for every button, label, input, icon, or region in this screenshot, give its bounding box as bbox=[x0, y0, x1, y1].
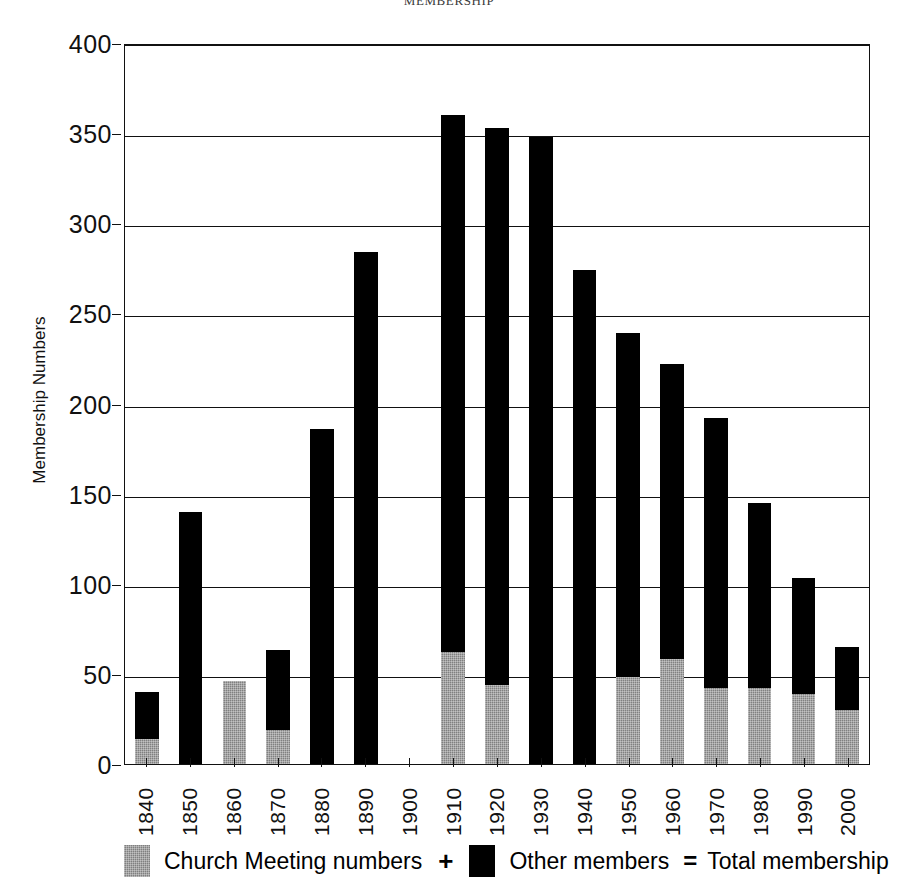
bar-slot bbox=[213, 46, 257, 764]
bar-segment-other-members[interactable] bbox=[266, 650, 290, 729]
x-axis-tick-mark bbox=[541, 758, 542, 767]
x-axis-tick-slot: 1920 bbox=[475, 767, 519, 839]
bar-segment-other-members[interactable] bbox=[616, 333, 640, 677]
y-axis-tick-label: 150 bbox=[2, 480, 112, 509]
bar-segment-other-members[interactable] bbox=[354, 252, 378, 764]
bar-slot bbox=[738, 46, 782, 764]
x-axis-tick-slot: 1980 bbox=[738, 767, 782, 839]
x-axis-tick-label: 1960 bbox=[662, 767, 683, 839]
x-axis-tick-slot: 1970 bbox=[694, 767, 738, 839]
bar-segment-church-meeting[interactable] bbox=[792, 694, 816, 764]
bar-slot bbox=[475, 46, 519, 764]
x-axis-tick-mark bbox=[848, 758, 849, 767]
y-axis-tick-label: 100 bbox=[2, 570, 112, 599]
bar-segment-church-meeting[interactable] bbox=[223, 681, 247, 764]
x-axis-tick-slot: 1990 bbox=[782, 767, 826, 839]
bar-segment-other-members[interactable] bbox=[310, 429, 334, 764]
bar-segment-other-members[interactable] bbox=[485, 128, 509, 685]
x-axis-tick-labels: 1840185018601870188018901900191019201930… bbox=[124, 767, 870, 839]
bar-segment-other-members[interactable] bbox=[704, 418, 728, 688]
x-axis-tick-mark bbox=[716, 758, 717, 767]
y-axis-tick-mark bbox=[112, 405, 121, 406]
bar-segment-church-meeting[interactable] bbox=[485, 685, 509, 764]
stacked-bar[interactable] bbox=[616, 333, 640, 764]
bar-slot bbox=[300, 46, 344, 764]
y-axis-tick-mark bbox=[112, 44, 121, 45]
bar-slot bbox=[256, 46, 300, 764]
y-axis-tick-label: 200 bbox=[2, 390, 112, 419]
x-axis-tick-label: 1850 bbox=[179, 767, 200, 839]
y-axis-tick-mark bbox=[112, 224, 121, 225]
x-axis-tick-label: 1970 bbox=[706, 767, 727, 839]
stacked-bar[interactable] bbox=[354, 252, 378, 764]
bar-slot bbox=[519, 46, 563, 764]
x-axis-tick-mark bbox=[409, 758, 410, 767]
x-axis-tick-label: 1840 bbox=[135, 767, 156, 839]
bar-slot bbox=[388, 46, 432, 764]
x-axis-tick-mark bbox=[760, 758, 761, 767]
y-axis-tick-label: 350 bbox=[2, 120, 112, 149]
y-axis-tick-mark bbox=[112, 134, 121, 135]
x-axis-tick-mark bbox=[629, 758, 630, 767]
legend-swatch-other-icon bbox=[469, 845, 495, 877]
chart-legend: Church Meeting numbers + Other members =… bbox=[124, 841, 884, 881]
stacked-bar[interactable] bbox=[748, 503, 772, 764]
stacked-bar[interactable] bbox=[485, 128, 509, 764]
y-axis-tick-mark bbox=[112, 314, 121, 315]
stacked-bar[interactable] bbox=[223, 681, 247, 764]
x-axis-tick-slot: 1940 bbox=[563, 767, 607, 839]
y-axis-tick-mark bbox=[112, 495, 121, 496]
x-axis-tick-label: 1950 bbox=[618, 767, 639, 839]
bar-slot bbox=[650, 46, 694, 764]
stacked-bar[interactable] bbox=[310, 429, 334, 764]
x-axis-tick-label: 1930 bbox=[530, 767, 551, 839]
bar-segment-church-meeting[interactable] bbox=[748, 688, 772, 764]
stacked-bar[interactable] bbox=[266, 650, 290, 764]
bar-segment-church-meeting[interactable] bbox=[441, 652, 465, 764]
bar-segment-other-members[interactable] bbox=[835, 647, 859, 710]
legend-swatch-church-icon bbox=[124, 845, 150, 877]
stacked-bar[interactable] bbox=[660, 364, 684, 764]
stacked-bar[interactable] bbox=[792, 578, 816, 764]
x-axis-tick-label: 1990 bbox=[794, 767, 815, 839]
legend-label-total: Total membership bbox=[707, 848, 889, 875]
x-axis-tick-mark bbox=[365, 758, 366, 767]
x-axis-tick-slot: 1960 bbox=[651, 767, 695, 839]
y-axis-tick-mark bbox=[112, 675, 121, 676]
bar-segment-other-members[interactable] bbox=[660, 364, 684, 660]
x-axis-tick-mark bbox=[804, 758, 805, 767]
bar-segment-church-meeting[interactable] bbox=[660, 659, 684, 764]
x-axis-tick-slot: 1930 bbox=[519, 767, 563, 839]
x-axis-tick-label: 1940 bbox=[574, 767, 595, 839]
chart-title: MEMBERSHIP bbox=[0, 0, 898, 9]
bar-segment-other-members[interactable] bbox=[441, 115, 465, 652]
x-axis-tick-slot: 1910 bbox=[431, 767, 475, 839]
bar-segment-other-members[interactable] bbox=[179, 512, 203, 764]
stacked-bar[interactable] bbox=[179, 512, 203, 764]
stacked-bar[interactable] bbox=[835, 647, 859, 764]
x-axis-tick-slot: 1950 bbox=[607, 767, 651, 839]
bar-segment-other-members[interactable] bbox=[792, 578, 816, 693]
x-axis-tick-mark bbox=[278, 758, 279, 767]
bar-segment-other-members[interactable] bbox=[748, 503, 772, 689]
bar-segment-other-members[interactable] bbox=[135, 692, 159, 739]
bar-segment-other-members[interactable] bbox=[573, 270, 597, 764]
bar-slot bbox=[431, 46, 475, 764]
stacked-bar[interactable] bbox=[573, 270, 597, 764]
bar-segment-church-meeting[interactable] bbox=[835, 710, 859, 764]
bar-slot bbox=[125, 46, 169, 764]
bar-segment-church-meeting[interactable] bbox=[704, 688, 728, 764]
x-axis-tick-label: 1860 bbox=[223, 767, 244, 839]
x-axis-tick-mark bbox=[321, 758, 322, 767]
bar-segment-church-meeting[interactable] bbox=[616, 677, 640, 764]
stacked-bar[interactable] bbox=[704, 418, 728, 764]
bar-slot bbox=[694, 46, 738, 764]
stacked-bar[interactable] bbox=[135, 692, 159, 764]
x-axis-tick-slot: 1840 bbox=[124, 767, 168, 839]
legend-label-church: Church Meeting numbers bbox=[164, 848, 422, 875]
plot-area bbox=[124, 44, 870, 765]
stacked-bar[interactable] bbox=[441, 115, 465, 764]
bar-segment-other-members[interactable] bbox=[529, 137, 553, 764]
x-axis-tick-label: 1890 bbox=[355, 767, 376, 839]
stacked-bar[interactable] bbox=[529, 137, 553, 764]
